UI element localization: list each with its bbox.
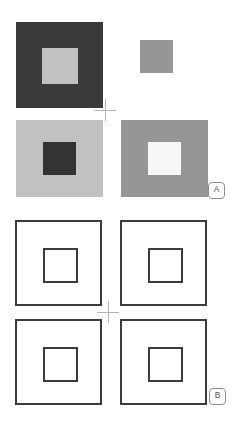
panel-b-stimulus-bottom-right-inner [148,347,183,382]
panel-a-stimulus-bottom-left [16,120,103,197]
panel-b-stimulus-bottom-left [15,319,102,405]
panel-b-stimulus-top-left [15,220,102,306]
crosshair-horizontal-line [97,312,119,313]
panel-a-stimulus-top-right [140,40,173,73]
panel-a [0,0,242,212]
panel-a-stimulus-top-left-inner [42,48,78,84]
crosshair-vertical-line [108,301,109,323]
panel-a-stimulus-bottom-right-inner [148,142,181,175]
panel-a-stimulus-top-left [16,22,103,108]
panel-b [0,212,242,430]
panel-label-badge-a: A [208,182,225,199]
crosshair-vertical-line [105,99,106,121]
panel-a-stimulus-bottom-left-inner [43,142,76,175]
panel-b-stimulus-top-left-inner [43,248,78,283]
panel-label-badge-b: B [209,388,226,405]
panel-b-stimulus-top-right-inner [148,248,183,283]
crosshair-horizontal-line [94,110,116,111]
stimulus-figure: A B [0,0,242,430]
panel-a-stimulus-bottom-right [121,120,208,197]
panel-b-stimulus-bottom-right [120,319,207,405]
panel-b-stimulus-top-right [120,220,207,306]
panel-b-stimulus-bottom-left-inner [43,347,78,382]
